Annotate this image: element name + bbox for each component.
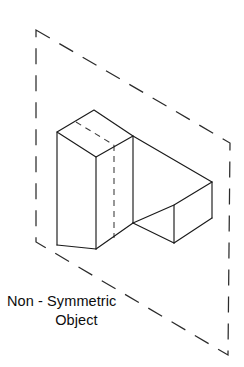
figure-canvas: Non - Symmetric Object — [0, 0, 244, 367]
caption-line-2: Object — [0, 311, 150, 330]
lshaped-object-group — [57, 110, 212, 249]
caption-line-1: Non - Symmetric — [0, 292, 150, 311]
figure-caption: Non - Symmetric Object — [0, 292, 150, 329]
